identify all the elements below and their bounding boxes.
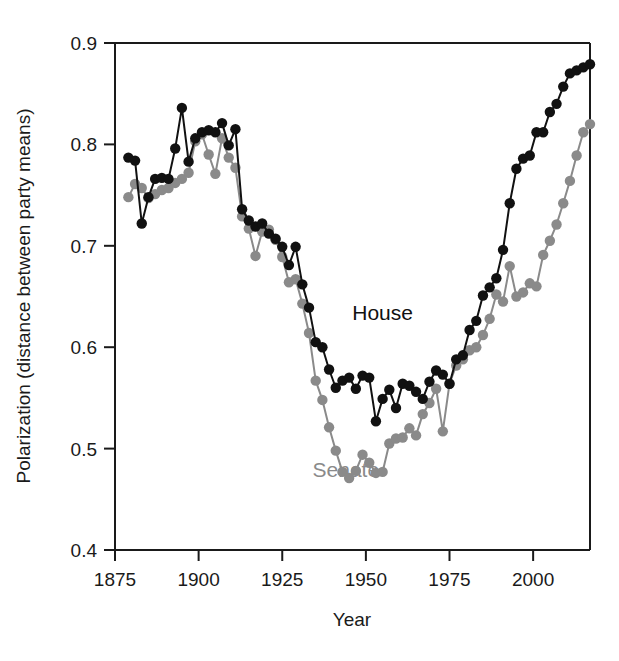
data-point — [170, 143, 180, 153]
series-line — [128, 64, 590, 421]
data-point — [458, 350, 468, 360]
data-point — [438, 369, 448, 379]
data-point — [183, 168, 193, 178]
data-point — [571, 150, 581, 160]
data-point — [484, 282, 494, 292]
data-point — [304, 302, 314, 312]
data-point — [498, 245, 508, 255]
x-axis-ticks — [115, 550, 533, 561]
series-house — [123, 59, 595, 426]
data-point — [324, 422, 334, 432]
x-tick-label: 1950 — [345, 569, 387, 590]
data-point — [351, 384, 361, 394]
x-tick-label: 2000 — [512, 569, 554, 590]
data-point — [471, 342, 481, 352]
data-point — [551, 99, 561, 109]
x-tick-label: 1925 — [261, 569, 303, 590]
data-point — [331, 445, 341, 455]
data-point — [545, 236, 555, 246]
data-point — [525, 150, 535, 160]
data-point — [250, 251, 260, 261]
data-point — [183, 156, 193, 166]
data-point — [491, 273, 501, 283]
data-point — [411, 430, 421, 440]
data-series-layer — [123, 59, 595, 483]
data-point — [551, 219, 561, 229]
data-point — [371, 416, 381, 426]
data-point — [391, 403, 401, 413]
data-point — [224, 140, 234, 150]
data-point — [203, 149, 213, 159]
data-point — [578, 127, 588, 137]
y-tick-label: 0.6 — [71, 337, 97, 358]
data-point — [397, 432, 407, 442]
data-point — [585, 59, 595, 69]
data-point — [177, 103, 187, 113]
data-point — [123, 192, 133, 202]
data-point — [217, 118, 227, 128]
data-point — [137, 218, 147, 228]
data-point — [210, 169, 220, 179]
data-point — [511, 164, 521, 174]
data-point — [505, 198, 515, 208]
x-axis-tick-labels: 187519001925195019752000 — [94, 569, 554, 590]
data-point — [237, 204, 247, 214]
data-point — [311, 375, 321, 385]
data-point — [163, 174, 173, 184]
y-tick-label: 0.8 — [71, 134, 97, 155]
y-axis-tick-labels: 0.40.50.60.70.80.9 — [71, 33, 98, 561]
chart-canvas: 0.40.50.60.70.80.9 187519001925195019752… — [0, 0, 619, 661]
data-point — [424, 376, 434, 386]
data-point — [478, 330, 488, 340]
data-point — [364, 372, 374, 382]
data-point — [344, 372, 354, 382]
data-point — [130, 155, 140, 165]
y-tick-label: 0.9 — [71, 33, 97, 54]
data-point — [565, 176, 575, 186]
data-point — [471, 316, 481, 326]
data-point — [297, 279, 307, 289]
data-point — [558, 198, 568, 208]
data-point — [484, 314, 494, 324]
data-point — [230, 124, 240, 134]
data-point — [518, 287, 528, 297]
data-point — [284, 260, 294, 270]
y-axis-ticks — [104, 43, 115, 550]
data-point — [505, 261, 515, 271]
data-point — [277, 242, 287, 252]
y-tick-label: 0.4 — [71, 540, 98, 561]
polarization-chart-figure: 0.40.50.60.70.80.9 187519001925195019752… — [0, 0, 619, 661]
series-label-house: House — [352, 301, 413, 324]
x-axis-title: Year — [333, 609, 372, 630]
data-point — [270, 234, 280, 244]
data-point — [438, 426, 448, 436]
data-point — [317, 342, 327, 352]
series-label-senate: Senate — [313, 458, 380, 481]
x-tick-label: 1975 — [428, 569, 470, 590]
data-point — [478, 290, 488, 300]
y-axis-title: Polarization (distance between party mea… — [13, 109, 34, 484]
data-point — [538, 127, 548, 137]
data-point — [257, 218, 267, 228]
data-point — [538, 250, 548, 260]
data-point — [317, 395, 327, 405]
data-point — [143, 192, 153, 202]
data-point — [585, 119, 595, 129]
data-point — [290, 242, 300, 252]
data-point — [377, 394, 387, 404]
data-point — [558, 81, 568, 91]
x-tick-label: 1900 — [177, 569, 219, 590]
x-tick-label: 1875 — [94, 569, 136, 590]
data-point — [531, 281, 541, 291]
y-tick-label: 0.5 — [71, 439, 97, 460]
data-point — [464, 325, 474, 335]
data-point — [224, 152, 234, 162]
y-tick-label: 0.7 — [71, 236, 97, 257]
data-point — [498, 296, 508, 306]
data-point — [210, 127, 220, 137]
data-point — [324, 364, 334, 374]
data-point — [545, 107, 555, 117]
data-point — [418, 409, 428, 419]
data-point — [418, 394, 428, 404]
data-point — [384, 385, 394, 395]
